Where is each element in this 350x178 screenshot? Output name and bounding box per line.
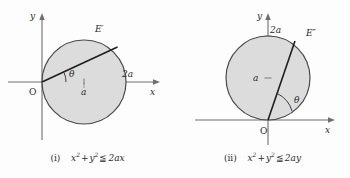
caption-plus-i: + [80, 153, 90, 163]
caption-rhs-ii: 2ay [285, 153, 301, 163]
y-axis-label-ii: y [256, 11, 263, 21]
y-axis-label-i: y [29, 11, 36, 21]
caption-plus-ii: + [256, 153, 266, 163]
caption-index-i: (i) [50, 153, 60, 163]
diagram-panel-ii: y x O E″ θ a 2a (ii) x2+y2≦2ay [175, 0, 350, 178]
caption-relation-i: ≦ [98, 153, 108, 163]
angle-label-ii: θ [294, 95, 300, 105]
figure-container: y x O E′ θ a 2a (i) x2+y2≦2ax [0, 0, 350, 178]
caption-relation-ii: ≦ [275, 153, 285, 163]
diagram-panel-i: y x O E′ θ a 2a (i) x2+y2≦2ax [0, 0, 175, 178]
x-axis-label-i: x [150, 87, 155, 97]
caption-ii: (ii) x2+y2≦2ay [175, 148, 350, 165]
x-axis-label-ii: x [325, 125, 330, 135]
caption-rhs-i: 2ax [108, 153, 124, 163]
origin-label-ii: O [260, 126, 267, 136]
caption-index-ii: (ii) [224, 153, 237, 163]
a-label-ii: a [253, 73, 258, 83]
diameter-label-ii: 2a [269, 25, 281, 35]
curve-label-ii: E″ [305, 28, 317, 38]
origin-label-i: O [29, 87, 36, 97]
center-distance-label-i: a [81, 87, 86, 97]
curve-label-i: E′ [94, 24, 104, 34]
diameter-label-i: 2a [121, 69, 133, 79]
angle-label-i: θ [69, 69, 75, 79]
caption-i: (i) x2+y2≦2ax [0, 148, 175, 165]
